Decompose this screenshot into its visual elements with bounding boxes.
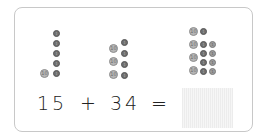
coin-label: 10: [190, 68, 196, 73]
coin-label: 10: [190, 42, 196, 47]
coin-label: 1: [55, 72, 58, 76]
coin-label: 1: [202, 52, 205, 56]
ten-coin: 10: [109, 44, 118, 53]
one-coin: 1: [53, 60, 60, 67]
one-coin: 1: [209, 59, 216, 66]
one-coin: 1: [53, 70, 60, 77]
coin-label: 1: [202, 43, 205, 47]
coin-label: 1: [202, 70, 205, 74]
one-coin: 1: [121, 50, 128, 57]
one-coin: 1: [53, 40, 60, 47]
one-coin: 1: [121, 39, 128, 46]
one-coin: 1: [200, 28, 207, 35]
coin-label: 1: [211, 43, 214, 47]
coin-label: 1: [55, 62, 58, 66]
addend-2: 34: [110, 92, 140, 114]
coin-label: 10: [190, 55, 196, 60]
coin-label: 1: [123, 52, 126, 56]
one-coin: 1: [53, 30, 60, 37]
one-coin: 1: [121, 61, 128, 68]
coin-label: 1: [55, 42, 58, 46]
coin-label: 1: [55, 52, 58, 56]
coin-label: 1: [55, 32, 58, 36]
one-coin: 1: [200, 59, 207, 66]
one-coin: 1: [121, 72, 128, 79]
coin-label: 10: [110, 59, 116, 64]
ten-coin: 10: [109, 70, 118, 79]
answer-box[interactable]: [182, 88, 233, 128]
coin-label: 10: [110, 72, 116, 77]
one-coin: 1: [209, 68, 216, 75]
ten-coin: 10: [189, 40, 198, 49]
one-coin: 1: [200, 41, 207, 48]
one-coin: 1: [53, 50, 60, 57]
coin-label: 1: [211, 52, 214, 56]
coin-label: 1: [123, 63, 126, 67]
coin-label: 1: [202, 30, 205, 34]
plus-sign: +: [80, 92, 99, 114]
ten-coin: 10: [40, 69, 49, 78]
coin-label: 1: [123, 41, 126, 45]
coin-label: 1: [211, 61, 214, 65]
addend-1: 15: [37, 92, 67, 114]
one-coin: 1: [200, 50, 207, 57]
coin-label: 10: [41, 71, 47, 76]
ten-coin: 10: [109, 57, 118, 66]
coin-label: 10: [190, 29, 196, 34]
coin-label: 1: [202, 61, 205, 65]
one-coin: 1: [200, 68, 207, 75]
ten-coin: 10: [189, 53, 198, 62]
one-coin: 1: [209, 41, 216, 48]
ten-coin: 10: [189, 66, 198, 75]
ten-coin: 10: [189, 27, 198, 36]
equals-sign: =: [151, 92, 170, 114]
coin-label: 10: [110, 46, 116, 51]
coin-label: 1: [211, 70, 214, 74]
coin-label: 1: [123, 74, 126, 78]
one-coin: 1: [209, 50, 216, 57]
